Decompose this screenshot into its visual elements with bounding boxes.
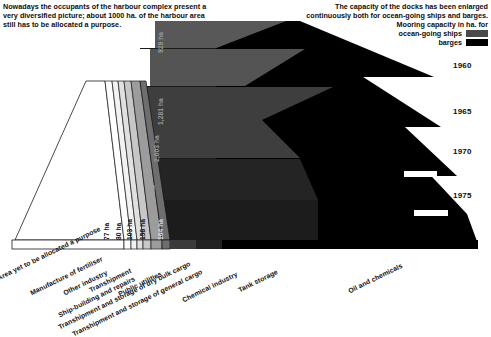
- year-label-1960: 1960: [453, 61, 472, 70]
- year-notch-1975: [414, 210, 448, 216]
- year-label-1975: 1975: [453, 191, 472, 200]
- band-label-929-ha: 929 ha: [157, 32, 164, 53]
- band-label-2003-ha: 2,003 ha: [153, 135, 160, 162]
- area-label-80-ha: 80 ha: [115, 223, 122, 240]
- year-label-1970: 1970: [453, 147, 472, 156]
- area-label-77-ha: 77 ha: [103, 223, 110, 240]
- band-label-2156-ha: 2,156 ha: [149, 185, 156, 212]
- band-label-1281-ha: 1,281 ha: [157, 98, 164, 125]
- baseline-strip: [12, 240, 478, 249]
- ocean-band-1975-left: [140, 159, 300, 200]
- area-label-164-ha: 164 ha: [157, 219, 164, 240]
- area-label-158-ha: 158 ha: [139, 219, 146, 240]
- allocation-slices: [15, 81, 170, 240]
- area-label-103-ha: 103 ha: [126, 219, 133, 240]
- year-notch-1970: [404, 171, 437, 177]
- ocean-band-1965-left: [150, 49, 245, 86]
- year-label-1965: 1965: [453, 107, 472, 116]
- ocean-band-1960-left: [155, 21, 216, 48]
